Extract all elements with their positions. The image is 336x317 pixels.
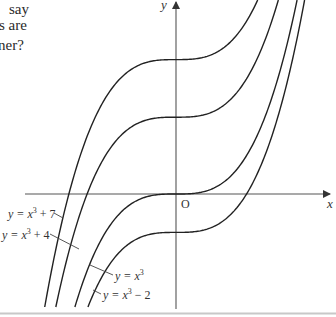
label-plus7: y = x3 + 7 xyxy=(7,206,56,221)
curve-cubic xyxy=(75,0,297,307)
leader-line-plus4 xyxy=(50,234,79,249)
x-axis-label: x xyxy=(326,196,333,211)
question-text-line-2: s are xyxy=(0,18,27,33)
leader-lines xyxy=(50,213,113,294)
curve-minus2 xyxy=(88,0,305,307)
question-text-line-1: say xyxy=(9,2,29,17)
curves-group xyxy=(45,0,305,307)
curve-plus7 xyxy=(45,0,258,307)
label-minus2: y = x3 − 2 xyxy=(102,287,151,302)
question-text-line-3: ner? xyxy=(0,38,24,53)
label-cubic: y = x3 xyxy=(114,268,144,283)
origin-label: O xyxy=(181,197,190,211)
cubic-translations-figure: say s are ner? x y O y = x3 + 7 y = x3 +… xyxy=(0,0,336,317)
graph-plot: x y O y = x3 + 7 y = x3 + 4 y = x3 y = x… xyxy=(0,0,336,317)
label-plus4: y = x3 + 4 xyxy=(1,227,50,242)
leader-line-cubic xyxy=(90,265,113,275)
y-axis-label: y xyxy=(159,0,167,12)
curve-plus4 xyxy=(56,0,279,307)
